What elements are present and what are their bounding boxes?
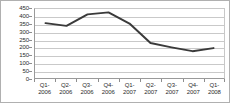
x-axis-tick-label-line: 2006 — [59, 89, 72, 96]
x-axis-tick-label: Q3-2006 — [81, 82, 94, 96]
x-axis-tick-label-line: Q3- — [165, 82, 178, 89]
x-axis-tick-label-line: Q1- — [123, 82, 136, 89]
series-line — [45, 12, 213, 51]
x-axis-tick-label-line: 2008 — [208, 89, 221, 96]
x-axis-tick-label: Q1-2006 — [38, 82, 51, 96]
y-axis-tick-mark — [29, 40, 32, 41]
y-axis-tick-label: 450 — [19, 5, 29, 11]
x-axis-tick-label-line: 2006 — [81, 89, 94, 96]
x-axis-tick-label-line: 2006 — [38, 89, 51, 96]
x-axis-tick-label-line: Q1- — [38, 82, 51, 89]
x-axis-tick-label-line: Q2- — [144, 82, 157, 89]
y-axis-tick-mark — [29, 71, 32, 72]
y-axis-tick-mark — [29, 24, 32, 25]
plot-area — [34, 8, 225, 79]
y-axis-tick-label: 200 — [19, 44, 29, 50]
x-axis-tick-label-line: Q4- — [102, 82, 115, 89]
series-line-layer — [35, 9, 224, 78]
line-chart: 050100150200250300350400450 Q1-2006Q2-20… — [0, 0, 230, 103]
y-axis-tick-label: 300 — [19, 29, 29, 35]
y-axis-labels: 050100150200250300350400450 — [1, 8, 32, 79]
x-axis-labels: Q1-2006Q2-2006Q3-2006Q4-2006Q1-2007Q2-20… — [34, 82, 225, 102]
x-axis-tick-label-line: 2007 — [123, 89, 136, 96]
y-axis-tick-label: 250 — [19, 37, 29, 43]
y-axis-tick-mark — [29, 32, 32, 33]
y-axis-tick-label: 400 — [19, 13, 29, 19]
y-axis-tick-label: 150 — [19, 52, 29, 58]
y-axis-tick-mark — [29, 79, 32, 80]
x-axis-tick-label: Q3-2007 — [165, 82, 178, 96]
y-axis-tick-label: 100 — [19, 60, 29, 66]
x-axis-tick-label-line: 2007 — [144, 89, 157, 96]
x-axis-tick-label: Q2-2006 — [59, 82, 72, 96]
x-axis-tick-label-line: Q1- — [208, 82, 221, 89]
x-axis-tick-label-line: 2007 — [165, 89, 178, 96]
x-axis-tick-label: Q2-2007 — [144, 82, 157, 96]
y-axis-tick-mark — [29, 16, 32, 17]
x-axis-tick-label: Q4-2007 — [187, 82, 200, 96]
x-axis-tick-label: Q4-2006 — [102, 82, 115, 96]
y-axis-tick-mark — [29, 55, 32, 56]
y-axis-tick-mark — [29, 63, 32, 64]
x-axis-tick-label-line: 2007 — [187, 89, 200, 96]
x-axis-tick-label-line: 2006 — [102, 89, 115, 96]
y-axis-tick-label: 350 — [19, 21, 29, 27]
y-axis-tick-mark — [29, 47, 32, 48]
x-axis-tick-label-line: Q4- — [187, 82, 200, 89]
x-axis-tick-label: Q1-2007 — [123, 82, 136, 96]
x-axis-tick-label-line: Q3- — [81, 82, 94, 89]
x-axis-tick-label-line: Q2- — [59, 82, 72, 89]
x-axis-tick-label: Q1-2008 — [208, 82, 221, 96]
y-axis-tick-mark — [29, 8, 32, 9]
